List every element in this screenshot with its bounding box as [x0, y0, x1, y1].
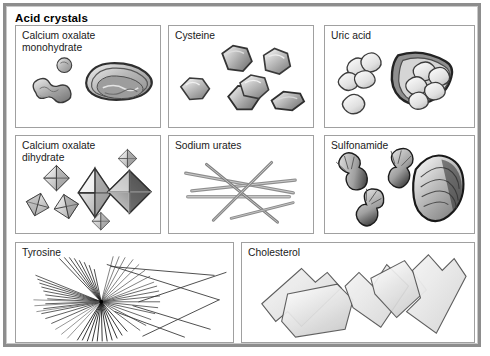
panel-label: Tyrosine: [22, 247, 61, 259]
panel-label: Uric acid: [331, 30, 371, 42]
panel-calcium-oxalate-monohydrate[interactable]: Calcium oxalate monohydrate: [15, 25, 161, 128]
panel-label: Calcium oxalate monohydrate: [22, 30, 95, 53]
panel-sulfonamide[interactable]: Sulfonamide: [324, 135, 475, 234]
panel-label: Sodium urates: [175, 140, 241, 152]
acid-crystals-figure: Acid crystals: [3, 3, 481, 347]
panel-label: Sulfonamide: [331, 140, 388, 152]
panel-calcium-oxalate-dihydrate[interactable]: Calcium oxalate dihydrate: [15, 135, 161, 234]
panel-label: Calcium oxalate dihydrate: [22, 140, 95, 163]
figure-title: Acid crystals: [15, 12, 88, 24]
panel-tyrosine[interactable]: Tyrosine: [15, 242, 234, 343]
panel-cysteine[interactable]: Cysteine: [168, 25, 314, 128]
panel-cholesterol[interactable]: Cholesterol: [241, 242, 475, 343]
panel-label: Cysteine: [175, 30, 215, 42]
panel-uric-acid[interactable]: Uric acid: [324, 25, 475, 128]
panel-sodium-urates[interactable]: Sodium urates: [168, 135, 314, 234]
panel-label: Cholesterol: [248, 247, 300, 259]
